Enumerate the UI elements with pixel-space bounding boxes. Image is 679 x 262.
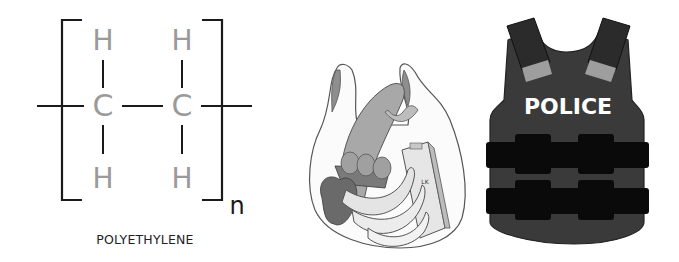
atom-h-bottom-left: H	[92, 162, 113, 195]
upper-strap	[486, 142, 649, 168]
atom-c-left: C	[93, 88, 114, 123]
police-vest-illustration: POLICE	[470, 0, 679, 262]
egg	[357, 154, 375, 176]
atom-h-top-right: H	[171, 24, 192, 57]
upper-left-buckle	[515, 134, 551, 174]
atom-h-bottom-right: H	[171, 162, 192, 195]
right-bracket	[202, 20, 222, 200]
atom-h-top-left: H	[92, 24, 113, 57]
egg	[373, 157, 391, 179]
polyethylene-formula: H H C C H H n POLYETHYLENE	[0, 0, 290, 262]
atom-c-right: C	[172, 88, 193, 123]
milk-carton-label: LK	[421, 178, 429, 185]
vest-drawing: POLICE	[470, 0, 679, 262]
formula-caption: POLYETHYLENE	[60, 232, 230, 247]
upper-right-buckle	[578, 134, 614, 174]
lower-left-buckle	[515, 180, 551, 220]
left-bracket	[62, 20, 82, 200]
repeat-subscript: n	[229, 192, 244, 220]
lower-strap	[486, 188, 649, 214]
lower-right-buckle	[578, 180, 614, 220]
bag-drawing: LK	[290, 0, 480, 262]
milk-carton-cap	[410, 143, 422, 149]
vest-label: POLICE	[524, 94, 612, 119]
egg	[341, 152, 359, 174]
formula-diagram: H H C C H H n	[0, 0, 290, 262]
plastic-bag-illustration: LK	[290, 0, 480, 262]
